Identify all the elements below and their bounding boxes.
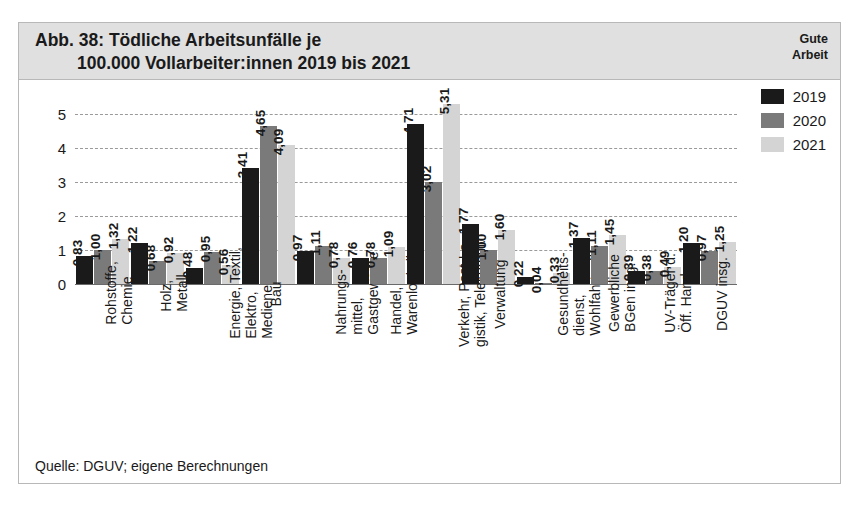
bar-rect (425, 182, 442, 284)
bar-value-label: 1,77 (456, 208, 471, 234)
bar-group: 3,414,654,09Bau (241, 94, 296, 284)
bar-value-label: 0,97 (694, 235, 709, 261)
x-axis-category-label: DGUV insg. (677, 293, 741, 311)
bar-value-label: 0,76 (345, 242, 360, 268)
bar-value-label: 0,95 (198, 236, 213, 262)
bar-2021[interactable]: 1,60 (498, 94, 515, 284)
bar-value-label: 1,22 (125, 226, 140, 252)
category-line: DGUV insg. (714, 257, 730, 331)
bar-2019[interactable]: 0,22 (517, 94, 534, 284)
bar-2020[interactable]: 1,00 (480, 94, 497, 284)
bar-group: 0,390,380,49UV-Träger d.Öff. Hand (627, 94, 682, 284)
bar-value-label: 1,60 (492, 214, 507, 240)
bar-value-label: 0,39 (621, 255, 636, 281)
bar-value-label: 0,78 (363, 241, 378, 267)
bar-value-label: 4,09 (271, 129, 286, 155)
bar-rect (278, 145, 295, 284)
bar-2020[interactable]: 0,97 (701, 94, 718, 284)
page-title: Abb. 38: Tödliche Arbeitsunfälle je 100.… (35, 29, 675, 75)
legend-swatch-2020 (761, 113, 784, 128)
title-line-1: Abb. 38: Tödliche Arbeitsunfälle je (35, 29, 675, 52)
category-line: Rohstoffe, (103, 261, 119, 325)
bar-group: 1,200,971,25DGUV insg. (682, 94, 737, 284)
bar-group: 0,831,001,32Rohstoffe,Chemie (75, 94, 130, 284)
bar-group-bars: 1,220,680,92 (130, 94, 185, 284)
bar-group: 0,971,110,78Nahrungs-mittel,Gastgewerbe (296, 94, 351, 284)
bar-group: 0,220,040,33Gesundheits-dienst,Wohlfahrt… (516, 94, 571, 284)
y-axis-tick-1: 1 (58, 242, 66, 259)
y-axis-tick-2: 2 (58, 208, 66, 225)
legend-item-2021[interactable]: 2021 (761, 136, 826, 153)
bar-group: 1,771,001,60Verwaltung (461, 94, 516, 284)
y-axis-tick-0: 0 (58, 276, 66, 293)
bar-value-label: 0,68 (143, 245, 158, 271)
bar-value-label: 1,00 (88, 234, 103, 260)
bar-value-label: 0,38 (639, 255, 654, 281)
legend-label-2019: 2019 (793, 88, 826, 105)
bar-value-label: 0,83 (70, 240, 85, 266)
x-axis-category-text: Bau (268, 282, 284, 307)
bar-group: 1,371,111,45GewerblicheBGen insg. (572, 94, 627, 284)
bar-group-bars: 1,200,971,25 (682, 94, 737, 284)
bar-value-label: 1,00 (474, 234, 489, 260)
source-note: Quelle: DGUV; eigene Berechnungen (35, 458, 268, 474)
bar-group-bars: 1,771,001,60 (461, 94, 516, 284)
bar-value-label: 4,71 (401, 108, 416, 134)
x-axis-category-text: DGUV insg. (714, 257, 730, 331)
brand-logo: Gute Arbeit (792, 31, 828, 63)
bar-value-label: 1,32 (106, 223, 121, 249)
bar-group-bars: 0,831,001,32 (75, 94, 130, 284)
bar-value-label: 1,45 (602, 219, 617, 245)
bar-value-label: 0,97 (290, 235, 305, 261)
bar-rect (242, 168, 259, 284)
bar-value-label: 3,41 (235, 152, 250, 178)
y-axis-tick-3: 3 (58, 174, 66, 191)
bar-2020[interactable]: 4,65 (260, 94, 277, 284)
legend-item-2019[interactable]: 2019 (761, 88, 826, 105)
bar-value-label: 4,65 (253, 110, 268, 136)
brand-line-1: Gute (792, 31, 828, 47)
bar-value-label: 0,48 (180, 252, 195, 278)
figure-body: 201920202021 0123450,831,001,32Rohstoffe… (19, 80, 840, 483)
legend-swatch-2019 (761, 89, 784, 104)
bar-value-label: 0,92 (161, 237, 176, 263)
bar-group-bars: 3,414,654,09 (241, 94, 296, 284)
bar-value-label: 0,22 (511, 260, 526, 286)
bar-group-bars: 4,713,025,31 (406, 94, 461, 284)
legend-item-2020[interactable]: 2020 (761, 112, 826, 129)
legend-label-2021: 2021 (793, 136, 826, 153)
bar-value-label: 0,04 (529, 266, 544, 292)
bar-group: 4,713,025,31Verkehr, Post-Lo-gistik, Tel… (406, 94, 461, 284)
bar-group: 0,480,950,56Energie, Textil,Elektro,Medi… (185, 94, 240, 284)
figure-header: Abb. 38: Tödliche Arbeitsunfälle je 100.… (19, 23, 840, 80)
plot-area: 0123450,831,001,32Rohstoffe,Chemie1,220,… (75, 94, 737, 284)
bar-value-label: 1,25 (712, 225, 727, 251)
y-axis-tick-4: 4 (58, 140, 66, 157)
bar-2020[interactable]: 3,02 (425, 94, 442, 284)
bar-value-label: 1,20 (676, 227, 691, 253)
bar-2021[interactable]: 1,25 (719, 94, 736, 284)
category-line: Verwaltung (491, 259, 507, 328)
bar-2020[interactable]: 0,04 (535, 94, 552, 284)
bar-value-label: 1,11 (584, 231, 599, 257)
title-line-2: 100.000 Vollarbeiter:innen 2019 bis 2021 (35, 52, 675, 75)
legend-label-2020: 2020 (793, 112, 826, 129)
bar-value-label: 5,31 (437, 88, 452, 114)
chart-legend: 201920202021 (761, 88, 826, 160)
category-line: UV-Träger d. (662, 253, 678, 333)
legend-swatch-2021 (761, 137, 784, 152)
bar-group: 0,760,781,09Handel,Warenlogistik (351, 94, 406, 284)
bar-value-label: 1,37 (566, 221, 581, 247)
category-line: Holz, (158, 274, 174, 311)
x-axis-category-text: Verwaltung (491, 259, 507, 328)
category-line: Bau (268, 282, 284, 307)
bar-2020[interactable]: 1,00 (94, 94, 111, 284)
bar-value-label: 1,11 (308, 231, 323, 257)
bar-group: 1,220,680,92Holz,Metall (130, 94, 185, 284)
y-axis-tick-5: 5 (58, 106, 66, 123)
category-line: Gewerbliche (606, 254, 622, 332)
bar-value-label: 3,02 (419, 165, 434, 191)
bar-rect (407, 124, 424, 284)
figure-container: Abb. 38: Tödliche Arbeitsunfälle je 100.… (18, 22, 841, 484)
bar-2021[interactable]: 1,32 (112, 94, 129, 284)
